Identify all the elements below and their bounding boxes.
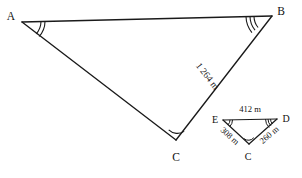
vertex-label-C-small: C bbox=[245, 151, 252, 162]
vertex-label-B: B bbox=[277, 5, 285, 17]
vertex-label-C: C bbox=[172, 151, 180, 163]
angle-mark-B bbox=[246, 16, 258, 32]
figure-canvas: A B C 1 264 m bbox=[0, 0, 302, 178]
triangle-EDC: E D C 412 m 308 m 260 m bbox=[212, 104, 290, 162]
vertex-label-D: D bbox=[282, 113, 289, 124]
side-label-ED: 412 m bbox=[239, 104, 261, 114]
side-label-BC: 1 264 m bbox=[194, 61, 221, 92]
vertex-label-E: E bbox=[212, 114, 218, 125]
geometry-figure: A B C 1 264 m bbox=[0, 0, 302, 178]
side-AC bbox=[22, 22, 176, 140]
side-label-CD: 260 m bbox=[258, 124, 281, 146]
side-ED bbox=[223, 119, 277, 120]
side-AB bbox=[22, 16, 272, 22]
vertex-label-A: A bbox=[7, 10, 16, 22]
angle-mark-C-small bbox=[244, 138, 254, 141]
side-label-EC: 308 m bbox=[219, 125, 242, 147]
